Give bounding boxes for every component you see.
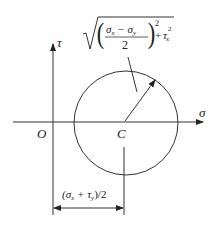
tau-exponent: 2 bbox=[168, 25, 172, 33]
exponent: 2 bbox=[155, 19, 159, 28]
formula-leader-line bbox=[128, 57, 137, 92]
radius-formula: ( σx − σy 2 ) 2 + τx 2 bbox=[83, 16, 174, 52]
fraction-denominator: 2 bbox=[122, 38, 128, 52]
radius-arrow bbox=[125, 80, 155, 121]
sigma-axis-label: σ bbox=[199, 105, 206, 120]
mohr-circle-diagram: τ σ O C ( σx − σy 2 ) 2 + τx 2 (σx + τy)… bbox=[0, 0, 218, 229]
svg-text:σx − σy: σx − σy bbox=[106, 23, 137, 37]
left-paren: ( bbox=[97, 16, 104, 50]
plus-sign: + bbox=[155, 29, 161, 41]
tau-axis-label: τ bbox=[57, 35, 63, 50]
origin-label: O bbox=[37, 126, 47, 141]
dimension-label: (σx + τy)/2 bbox=[62, 188, 106, 202]
center-label: C bbox=[117, 126, 126, 141]
mohr-circle bbox=[74, 71, 178, 175]
